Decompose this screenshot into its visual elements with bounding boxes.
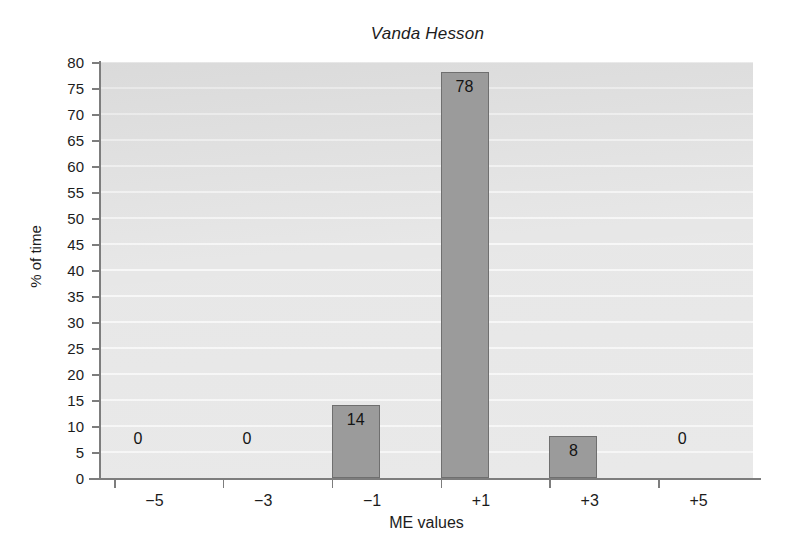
gridline (100, 425, 753, 427)
bar (441, 72, 489, 478)
x-axis-tick-label: −3 (209, 492, 318, 510)
y-axis-tick (92, 244, 100, 246)
y-axis-tick (92, 322, 100, 324)
gridline (100, 87, 753, 89)
bar-value-label: 78 (441, 78, 489, 96)
y-axis-tick-label: 70 (67, 107, 84, 122)
y-axis-tick (92, 426, 100, 428)
y-axis-tick (92, 140, 100, 142)
gridline (100, 113, 753, 115)
y-axis-tick (92, 478, 100, 480)
gridline (100, 399, 753, 401)
y-axis-tick (92, 348, 100, 350)
gridline (100, 321, 753, 323)
y-axis-tick-label: 75 (67, 81, 84, 96)
y-axis-tick (92, 192, 100, 194)
y-axis-tick (92, 218, 100, 220)
plot-area: 00147880 (100, 62, 753, 478)
y-axis-tick-label: 50 (67, 211, 84, 226)
gridline (100, 451, 753, 453)
y-axis-tick-label: 55 (67, 185, 84, 200)
x-axis-tick-label: +5 (644, 492, 753, 510)
gridline (100, 139, 753, 141)
y-axis-tick-label: 0 (76, 471, 84, 486)
gridline (100, 243, 753, 245)
x-axis-tick-label: −5 (100, 492, 209, 510)
gridline (100, 295, 753, 297)
y-axis-tick (92, 374, 100, 376)
y-axis-tick-label: 20 (67, 367, 84, 382)
gridline (100, 373, 753, 375)
y-axis-tick-label: 80 (67, 55, 84, 70)
y-axis-tick-label: 40 (67, 263, 84, 278)
y-axis-tick-label: 15 (67, 393, 84, 408)
chart-title: Vanda Hesson (100, 24, 755, 44)
bar-value-label: 14 (332, 411, 380, 429)
y-axis-tick-label: 35 (67, 289, 84, 304)
x-axis-line (89, 478, 761, 480)
y-axis-tick (92, 400, 100, 402)
y-axis-tick-label: 10 (67, 419, 84, 434)
y-axis-tick-label: 65 (67, 133, 84, 148)
x-axis-tick (549, 479, 551, 488)
y-axis-tick (92, 88, 100, 90)
x-axis-tick (223, 479, 225, 488)
y-axis-tick (92, 114, 100, 116)
gridline (100, 347, 753, 349)
y-axis-tick (92, 62, 100, 64)
x-axis-tick (441, 479, 443, 488)
gridline (100, 165, 753, 167)
bar-value-label: 8 (549, 442, 597, 460)
y-axis-tick (92, 166, 100, 168)
x-axis-tick (658, 479, 660, 488)
bar-value-label: 0 (658, 430, 706, 448)
y-axis-tick (92, 296, 100, 298)
y-axis-tick-label: 30 (67, 315, 84, 330)
gridline (100, 191, 753, 193)
gridline (100, 62, 753, 63)
x-axis-tick-label: −1 (318, 492, 427, 510)
bar-value-label: 0 (223, 430, 271, 448)
gridline (100, 217, 753, 219)
x-axis-tick-label: +1 (427, 492, 536, 510)
bar-value-label: 0 (114, 430, 162, 448)
x-axis-tick (332, 479, 334, 488)
chart-figure: Vanda Hesson 00147880 807570656055504540… (0, 0, 797, 540)
y-axis-tick-label: 60 (67, 159, 84, 174)
x-axis-tick (114, 479, 116, 488)
y-axis-tick (92, 270, 100, 272)
gridline (100, 269, 753, 271)
y-axis-tick-label: 45 (67, 237, 84, 252)
x-axis-title: ME values (100, 514, 753, 532)
y-axis-tick-label: 25 (67, 341, 84, 356)
x-axis-tick-label: +3 (535, 492, 644, 510)
y-axis-title: % of time (27, 202, 44, 312)
y-axis-tick-label: 5 (76, 445, 84, 460)
y-axis-tick (92, 452, 100, 454)
